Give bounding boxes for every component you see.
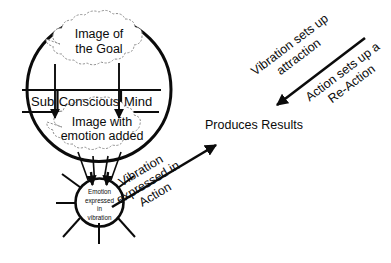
band-label-conscious: Conscious [59,94,120,109]
funnel-line-left [78,152,88,180]
band-label-sub: Sub [31,94,54,109]
mind-vibration-diagram: Emotion expressed in vibration Image of … [0,0,391,263]
lower-cloud-line-1: Image with [72,115,132,129]
ray-lower-left [63,218,80,237]
diagram-canvas: Emotion expressed in vibration Image of … [0,0,391,263]
small-circle-line-1: Emotion [88,188,112,195]
emotion-funnel [78,152,121,180]
ray-upper-left [62,174,81,188]
small-circle-line-4: vibration [88,214,112,221]
lower-cloud-line-2: emotion added [61,129,144,143]
band-label-mind: Mind [124,94,152,109]
funnel-line-midleft [93,156,95,180]
upper-cloud-line-1: Image of [75,27,124,41]
upper-cloud-line-2: the Goal [75,42,122,56]
ray-lower-right [118,218,135,237]
small-circle-line-3: in [97,205,102,212]
produces-results-label: Produces Results [205,118,303,132]
small-circle-line-2: expressed [85,197,115,205]
